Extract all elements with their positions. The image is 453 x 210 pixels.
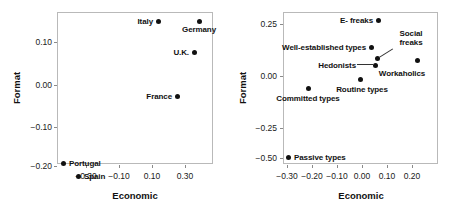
y-tick-label: −0.20 <box>30 161 52 171</box>
data-point <box>156 19 161 24</box>
x-tick-label: 0.30 <box>177 171 194 181</box>
y-tick-label: −0.25 <box>255 123 277 133</box>
x-tick-mark <box>362 165 363 168</box>
x-tick-mark <box>152 165 153 168</box>
data-point <box>197 19 202 24</box>
point-label-germany: Germany <box>182 25 216 34</box>
data-point <box>415 58 420 63</box>
scatter-panel-right: Format Economic 0.25 0.00 −0.25 −0.50 −0… <box>226 0 453 210</box>
y-tick-label: −0.10 <box>30 122 52 132</box>
y-axis-title-right: Format <box>237 72 248 104</box>
point-label-hedonists: Hedonists <box>318 61 356 70</box>
y-tick-label: 0.00 <box>260 71 277 81</box>
y-tick-mark <box>54 127 57 128</box>
point-label-workaholics: Workaholics <box>379 69 425 78</box>
y-tick-label: −0.50 <box>255 153 277 163</box>
data-point <box>286 155 291 160</box>
x-tick-label: −0.10 <box>108 171 130 181</box>
plot-frame-left <box>57 12 213 164</box>
x-tick-label: −0.30 <box>276 171 298 181</box>
point-label-portugal: Portugal <box>69 159 101 168</box>
point-label-e-freaks: E- freaks <box>340 16 373 25</box>
data-point <box>358 77 363 82</box>
x-tick-mark <box>337 165 338 168</box>
x-tick-label: −0.10 <box>326 171 348 181</box>
x-tick-mark <box>312 165 313 168</box>
y-axis-title-left: Format <box>11 72 22 104</box>
y-tick-mark <box>54 166 57 167</box>
y-tick-mark <box>280 158 283 159</box>
data-point <box>376 18 381 23</box>
y-tick-label: 0.25 <box>260 19 277 29</box>
y-tick-label: 0.10 <box>35 37 52 47</box>
data-point <box>76 174 81 179</box>
x-tick-label: 0.10 <box>144 171 161 181</box>
x-axis-title-left: Economic <box>112 190 157 201</box>
x-tick-label: 0.20 <box>404 171 421 181</box>
y-tick-mark <box>280 128 283 129</box>
data-point <box>306 86 311 91</box>
x-tick-mark <box>119 165 120 168</box>
y-tick-mark <box>280 76 283 77</box>
y-tick-mark <box>54 42 57 43</box>
point-label-social-freaks: Socialfreaks <box>400 29 423 47</box>
x-tick-mark <box>185 165 186 168</box>
x-tick-mark <box>287 165 288 168</box>
x-tick-label: 0.10 <box>379 171 396 181</box>
point-label-passive-types: Passive types <box>294 153 346 162</box>
x-tick-mark <box>387 165 388 168</box>
x-tick-mark <box>412 165 413 168</box>
y-tick-mark <box>54 85 57 86</box>
point-label-uk: U.K. <box>173 48 189 57</box>
x-axis-title-right: Economic <box>338 190 383 201</box>
point-label-spain: Spain <box>84 172 105 181</box>
point-label-routine-types: Routine types <box>336 85 388 94</box>
scatter-panel-left: Format Economic 0.10 0.00 −0.10 −0.20 −0… <box>0 0 226 210</box>
data-point <box>61 161 66 166</box>
y-tick-label: 0.00 <box>35 80 52 90</box>
y-tick-mark <box>280 24 283 25</box>
figure-container: Format Economic 0.10 0.00 −0.10 −0.20 −0… <box>0 0 453 210</box>
x-tick-label: 0.00 <box>354 171 371 181</box>
x-tick-label: −0.20 <box>301 171 323 181</box>
data-point <box>192 50 197 55</box>
point-label-committed-types: Committed types <box>276 94 339 103</box>
point-label-france: France <box>146 92 172 101</box>
leader-line-hedonists <box>357 64 373 65</box>
data-point <box>175 94 180 99</box>
point-label-well-established-types: Well-established types <box>282 43 366 52</box>
data-point <box>369 45 374 50</box>
data-point <box>373 63 378 68</box>
point-label-italy: Italy <box>137 17 153 26</box>
